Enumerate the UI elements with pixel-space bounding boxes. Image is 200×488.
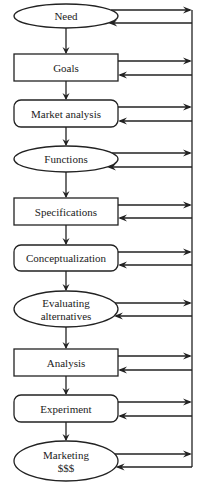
feedback-experiment [118, 399, 192, 420]
feedback-conceptualization [118, 249, 192, 269]
edge-market-analysis-to-functions [63, 127, 70, 146]
feedback-market-analysis [118, 104, 192, 125]
node-marketing: Marketing$$$ [14, 441, 118, 481]
feedback-need [108, 7, 192, 27]
node-label: Marketing [43, 449, 89, 461]
node-label: Market analysis [31, 108, 101, 120]
feedback-layer [107, 7, 192, 471]
edges-layer [63, 28, 70, 441]
node-analysis: Analysis [14, 349, 118, 376]
feedback-specifications [118, 202, 192, 222]
node-label: alternatives [41, 310, 92, 322]
feedback-goals [118, 58, 192, 79]
design-process-flowchart: NeedGoalsMarket analysisFunctionsSpecifi… [0, 0, 200, 488]
node-conceptualization: Conceptualization [14, 245, 118, 271]
edge-goals-to-market-analysis [63, 81, 70, 100]
node-label: Goals [53, 62, 79, 74]
node-label: Specifications [35, 206, 97, 218]
node-label: Need [54, 10, 78, 22]
node-label: Analysis [47, 357, 86, 369]
node-label: Conceptualization [26, 252, 107, 264]
edge-functions-to-specifications [63, 172, 70, 198]
edge-experiment-to-marketing [63, 422, 70, 441]
edge-analysis-to-experiment [63, 376, 70, 395]
node-goals: Goals [14, 54, 118, 81]
node-label: Functions [44, 153, 87, 165]
node-specifications: Specifications [14, 198, 118, 225]
node-evaluating-alternatives: Evaluatingalternatives [14, 291, 118, 327]
feedback-functions [107, 150, 192, 171]
edge-need-to-goals [63, 28, 70, 54]
feedback-marketing [115, 451, 192, 471]
feedback-evaluating-alternatives [114, 300, 192, 320]
node-need: Need [14, 4, 118, 28]
node-functions: Functions [14, 146, 118, 172]
edge-conceptualization-to-evaluating-alternatives [63, 271, 70, 291]
node-label: Experiment [40, 403, 91, 415]
node-label: Evaluating [42, 297, 90, 309]
flowchart-canvas: NeedGoalsMarket analysisFunctionsSpecifi… [0, 0, 200, 488]
edge-specifications-to-conceptualization [63, 225, 70, 245]
feedback-analysis [118, 353, 192, 374]
edge-evaluating-alternatives-to-analysis [63, 327, 70, 349]
node-market-analysis: Market analysis [14, 100, 118, 127]
node-experiment: Experiment [14, 395, 118, 422]
node-label: $$$ [58, 462, 75, 474]
